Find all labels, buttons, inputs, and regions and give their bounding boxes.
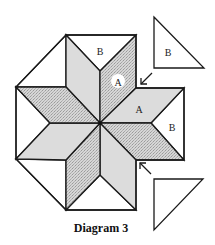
label-a-circled: A [114,77,122,88]
triangle-b-separate [154,17,204,68]
separate-triangle-bottom [154,179,203,230]
label-b-right: B [169,122,176,133]
label-b-triangle: B [165,47,172,58]
label-a-right: A [135,104,143,115]
center-point [98,121,101,124]
quilt-diagram: B A A B B Diagram 3 [0,0,215,245]
diagram-caption: Diagram 3 [74,221,128,235]
arrow-down-left-icon [141,73,152,84]
triangle-separate-bottom [154,179,203,230]
label-b-top: B [97,46,104,57]
arrow-up-left-icon [140,163,151,174]
separate-triangle-top: B [154,17,204,68]
